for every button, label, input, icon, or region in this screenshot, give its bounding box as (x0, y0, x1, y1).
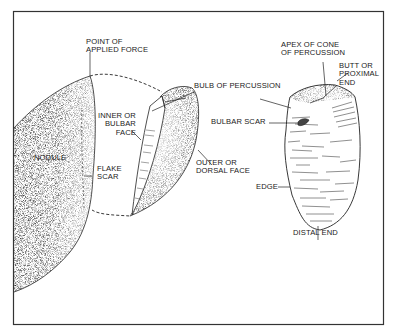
label-butt-proximal-end: BUTT OR PROXIMAL END (339, 62, 379, 87)
label-nodule: NODULE (34, 154, 66, 162)
detached-flake-view (285, 85, 360, 230)
label-outer-dorsal-face: OUTER OR DORSAL FACE (196, 159, 250, 176)
label-bulb-of-percussion: BULB OF PERCUSSION (194, 82, 281, 90)
nodule-shape (14, 76, 95, 292)
label-bulbar-scar: BULBAR SCAR (211, 118, 266, 126)
label-inner-bulbar-face: INNER OR BULBAR FACE (98, 112, 136, 137)
flake-diagram: POINT OF APPLIED FORCE NODULE INNER OR B… (0, 0, 394, 335)
label-flake-scar: FLAKE SCAR (97, 165, 122, 182)
label-apex-of-cone: APEX OF CONE OF PERCUSSION (281, 41, 345, 58)
flake-shape (130, 86, 199, 216)
label-distal-end: DISTAL END (293, 229, 338, 237)
label-point-of-applied-force: POINT OF APPLIED FORCE (86, 38, 148, 55)
label-edge: EDGE (256, 183, 278, 191)
